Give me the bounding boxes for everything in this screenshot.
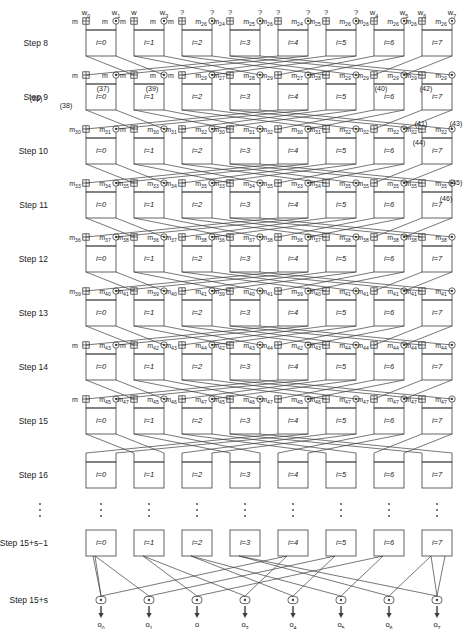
operand-r1-lane2-a: m	[168, 72, 174, 79]
operand-r3-lane4-a: m35	[261, 180, 272, 187]
arrow-down-icon-1	[146, 613, 151, 618]
box-label-r6-lane1: i=1	[144, 363, 154, 371]
operand-r5-lane4-a: m41	[261, 288, 272, 295]
operand-r3-lane5-b: m35	[339, 180, 350, 187]
column-header-5: ?	[210, 9, 214, 17]
operand-r2-lane4-a: m32	[261, 126, 272, 133]
equation-ref-43: (43)	[450, 120, 462, 127]
operand-r4-lane3-b: m37	[243, 234, 254, 241]
vertical-ellipsis-icon-caption	[39, 509, 41, 511]
operand-r7-lane1-b: m45	[147, 396, 158, 403]
operand-r5-lane5-a: m40	[309, 288, 320, 295]
box-label-r4-lane2: i=2	[192, 255, 202, 263]
column-header-11: ?	[354, 9, 358, 17]
operand-r1-lane3-a: m27	[213, 72, 224, 79]
box-label-step16-lane5: i=5	[336, 471, 346, 479]
operand-r2-lane5-b: m32	[339, 126, 350, 133]
arrow-down-icon-0	[98, 613, 103, 618]
operand-r3-lane0-a: m33	[69, 180, 80, 187]
operand-r6-lane6-b: m44	[387, 342, 398, 349]
operand-r4-lane7-a: m38	[405, 234, 416, 241]
box-label-r7-lane2: i=2	[192, 417, 202, 425]
operand-r0-lane7-b: m26	[435, 18, 446, 25]
dot-gate-center	[163, 20, 165, 22]
operand-r5-lane5-b: m41	[339, 288, 350, 295]
operand-r0-lane2-a: m	[168, 18, 174, 25]
operand-r6-lane3-b: m43	[243, 342, 254, 349]
fanout-7-6	[389, 556, 431, 596]
operand-r3-lane3-a: m33	[213, 180, 224, 187]
operand-r6-lane1-a: m	[120, 342, 126, 349]
operand-r7-lane7-a: m47	[405, 396, 416, 403]
box-label-r4-lane4: i=4	[288, 255, 298, 263]
box-label-r0-lane0: i=0	[96, 39, 106, 47]
operand-r4-lane0-a: m36	[69, 234, 80, 241]
operand-r3-lane2-b: m35	[195, 180, 206, 187]
box-label-r5-lane5: i=5	[336, 309, 346, 317]
box-label-15s1-lane7: i=7	[432, 539, 442, 547]
box-label-15s1-lane1: i=1	[144, 539, 154, 547]
vertical-ellipsis-icon-caption	[39, 503, 41, 505]
step-label-6: Step 14	[19, 363, 48, 372]
step-label-4: Step 12	[19, 255, 48, 264]
operand-r7-lane5-b: m47	[339, 396, 350, 403]
box-label-step16-lane4: i=4	[288, 471, 298, 479]
operand-r7-lane2-b: m47	[195, 396, 206, 403]
box-label-r1-lane2: i=2	[192, 93, 202, 101]
operand-r4-lane7-b: m38	[435, 234, 446, 241]
vertical-ellipsis-icon-lane1	[148, 509, 150, 511]
box-label-r0-lane5: i=5	[336, 39, 346, 47]
operand-r5-lane1-a: m41	[117, 288, 128, 295]
operand-r1-lane5-b: m29	[339, 72, 350, 79]
vertical-ellipsis-icon-lane0	[100, 503, 102, 505]
operand-r5-lane0-a: m39	[69, 288, 80, 295]
operand-r1-lane0-b: m	[102, 72, 108, 79]
box-label-r2-lane0: i=0	[96, 147, 106, 155]
operand-r6-lane4-b: m42	[291, 342, 302, 349]
fanout-7-7	[431, 556, 437, 596]
column-header-12: w4	[370, 9, 378, 17]
box-label-r3-lane7: i=7	[432, 201, 442, 209]
vertical-ellipsis-icon-lane2	[196, 515, 198, 517]
operand-r7-lane0-b: m45	[99, 396, 110, 403]
operand-r1-lane7-a: m29	[405, 72, 416, 79]
box-label-r6-lane0: i=0	[96, 363, 106, 371]
operand-r7-lane3-b: m46	[243, 396, 254, 403]
output-label-3: o3	[241, 621, 248, 629]
operand-r7-lane5-a: m46	[309, 396, 320, 403]
fanout-5-4	[293, 556, 335, 596]
vertical-ellipsis-icon-lane7	[436, 509, 438, 511]
output-label-1: o1	[145, 621, 152, 629]
operand-r1-lane4-b: m27	[291, 72, 302, 79]
operand-r6-lane5-a: m43	[309, 342, 320, 349]
operand-r4-lane4-b: m36	[291, 234, 302, 241]
operand-r5-lane2-a: m40	[165, 288, 176, 295]
operand-r4-lane6-a: m38	[357, 234, 368, 241]
operand-r2-lane1-b: m30	[147, 126, 158, 133]
vertical-ellipsis-icon-lane7	[436, 503, 438, 505]
operand-r6-lane5-b: m44	[339, 342, 350, 349]
box-label-r3-lane5: i=5	[336, 201, 346, 209]
column-header-14: w6	[418, 9, 426, 17]
output-label-4: o4	[289, 621, 296, 629]
box-label-r4-lane1: i=1	[144, 255, 154, 263]
box-label-r6-lane5: i=5	[336, 363, 346, 371]
operand-r0-lane0-a: m	[72, 18, 78, 25]
arrow-down-icon-7	[434, 613, 439, 618]
fanout-edge-right	[437, 556, 445, 596]
vertical-ellipsis-icon-lane0	[100, 509, 102, 511]
operand-r4-lane2-b: m38	[195, 234, 206, 241]
output-node-dot-6	[388, 599, 390, 601]
operand-r1-lane3-b: m28	[243, 72, 254, 79]
operand-r3-lane4-b: m33	[291, 180, 302, 187]
box-label-r5-lane0: i=0	[96, 309, 106, 317]
operand-r6-lane6-a: m44	[357, 342, 368, 349]
operand-r3-lane2-a: m34	[165, 180, 176, 187]
operand-r1-lane5-a: m28	[309, 72, 320, 79]
operand-r0-lane4-a: m26	[261, 18, 272, 25]
operand-r3-lane1-b: m33	[147, 180, 158, 187]
operand-r2-lane3-b: m31	[243, 126, 254, 133]
box-label-step16-lane2: i=2	[192, 471, 202, 479]
vertical-ellipsis-icon-lane7	[436, 515, 438, 517]
operand-r2-lane7-a: m32	[405, 126, 416, 133]
